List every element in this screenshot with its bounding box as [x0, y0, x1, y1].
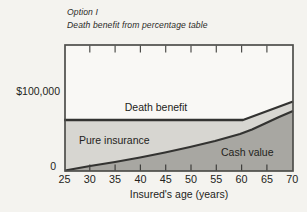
- series-label-cash-value: Cash value: [221, 146, 274, 158]
- x-tick-label-30: 30: [78, 173, 102, 185]
- x-tick-label-40: 40: [128, 173, 152, 185]
- x-axis-title: Insured's age (years): [104, 188, 254, 200]
- x-tick-label-60: 60: [230, 173, 254, 185]
- x-tick-label-25: 25: [53, 173, 77, 185]
- series-label-death-benefit: Death benefit: [97, 101, 215, 113]
- x-tick-label-55: 55: [204, 173, 228, 185]
- x-tick-label-45: 45: [154, 173, 178, 185]
- universal-life-option1-figure: Option I Death benefit from percentage t…: [0, 0, 307, 212]
- x-tick-label-70: 70: [280, 173, 304, 185]
- x-tick-label-50: 50: [179, 173, 203, 185]
- x-tick-label-65: 65: [255, 173, 279, 185]
- x-tick-label-35: 35: [103, 173, 127, 185]
- series-label-pure-insurance: Pure insurance: [79, 134, 150, 146]
- y-axis-label-zero: 0: [8, 160, 56, 172]
- y-axis-label-100000: $100,000: [8, 85, 60, 97]
